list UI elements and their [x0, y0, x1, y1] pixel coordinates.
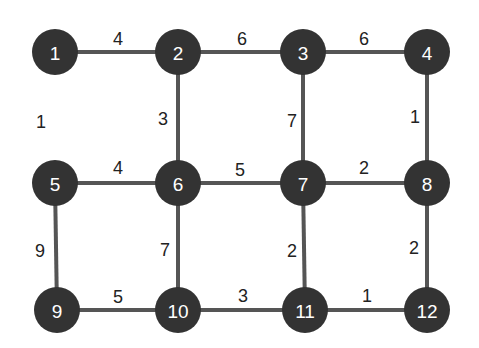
node-7: 7	[280, 160, 326, 206]
node-label: 1	[50, 43, 61, 64]
node-4: 4	[404, 29, 450, 75]
edge-weight-8-12: 2	[409, 238, 419, 258]
node-11: 11	[282, 287, 328, 333]
node-label: 12	[416, 301, 437, 322]
edge-weight-3-7: 7	[287, 111, 297, 131]
node-8: 8	[404, 160, 450, 206]
edge-weight-1-2: 4	[113, 29, 123, 49]
node-label: 10	[167, 301, 188, 322]
node-label: 8	[422, 174, 433, 195]
edges-layer	[55, 52, 427, 310]
node-1: 1	[32, 29, 78, 75]
node-label: 7	[298, 174, 309, 195]
node-2: 2	[155, 29, 201, 75]
edge-weight-9-10: 5	[113, 287, 123, 307]
edge-weight-2-3: 6	[237, 29, 247, 49]
edge-weight-7-11: 2	[287, 241, 297, 261]
node-6: 6	[155, 160, 201, 206]
edge-weight-4-8: 1	[410, 107, 420, 127]
edge-weight-10-11: 3	[238, 286, 248, 306]
edge-weight-5-6: 4	[113, 158, 123, 178]
node-10: 10	[155, 287, 201, 333]
edge-weight-5-9: 9	[35, 241, 45, 261]
node-12: 12	[404, 287, 450, 333]
node-label: 11	[295, 301, 315, 322]
edge-weight-3-4: 6	[359, 29, 369, 49]
node-label: 2	[173, 43, 184, 64]
node-9: 9	[34, 287, 80, 333]
node-label: 3	[298, 43, 309, 64]
weighted-grid-graph: 46613714529722531 123456789101112	[0, 0, 479, 348]
edge-weight-11-12: 1	[362, 286, 372, 306]
node-5: 5	[32, 160, 78, 206]
node-label: 4	[422, 43, 433, 64]
edge-weight-6-10: 7	[160, 240, 170, 260]
edge-weight-6-7: 5	[235, 160, 245, 180]
edge-weight-1-5: 1	[36, 112, 46, 132]
node-label: 6	[173, 174, 184, 195]
edge-weights-layer: 46613714529722531	[35, 29, 420, 307]
node-label: 5	[50, 174, 61, 195]
node-label: 9	[52, 301, 63, 322]
edge-weight-2-6: 3	[158, 109, 168, 129]
edge-weight-7-8: 2	[359, 158, 369, 178]
node-3: 3	[280, 29, 326, 75]
